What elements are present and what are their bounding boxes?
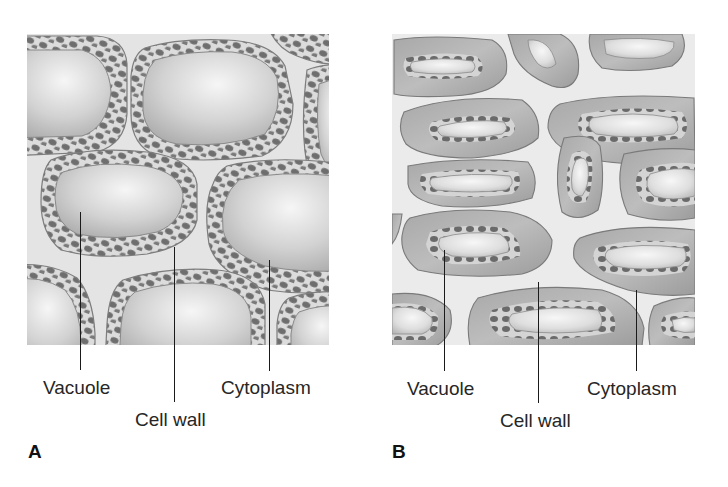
- cell-wall-label-a: Cell wall: [135, 410, 206, 429]
- cell: [589, 34, 684, 71]
- cell: [649, 298, 695, 345]
- cell: [408, 160, 535, 207]
- cell: [400, 99, 538, 159]
- vacuole-label-a: Vacuole: [43, 378, 110, 397]
- panel-letter-a: A: [28, 442, 42, 461]
- plasmolyzed-cells-drawing: [392, 34, 695, 345]
- cell: [394, 37, 507, 97]
- cell-wall-label-b: Cell wall: [500, 411, 571, 430]
- cell: [620, 149, 695, 221]
- vacuole-leader-a: [80, 212, 81, 370]
- cell: [468, 287, 644, 345]
- cytoplasm-label-a: Cytoplasm: [221, 378, 311, 397]
- turgid-cells-drawing: [27, 34, 329, 345]
- cytoplasm-leader-b: [636, 290, 637, 371]
- cell: [392, 210, 552, 276]
- cytoplasm-leader-a: [269, 260, 270, 371]
- vacuole-leader-b: [444, 250, 445, 371]
- cell: [131, 40, 293, 160]
- cell: [105, 269, 265, 345]
- cytoplasm-label-b: Cytoplasm: [587, 379, 677, 398]
- vacuole-label-b: Vacuole: [407, 379, 474, 398]
- cell: [27, 36, 127, 156]
- cell-wall-leader-b: [538, 282, 539, 403]
- cell-wall-leader-a: [174, 247, 175, 402]
- cell: [41, 150, 197, 256]
- panel-letter-b: B: [392, 442, 406, 461]
- panel-b-illustration: [392, 34, 695, 345]
- cell: [557, 136, 602, 217]
- panel-a-illustration: [27, 34, 329, 345]
